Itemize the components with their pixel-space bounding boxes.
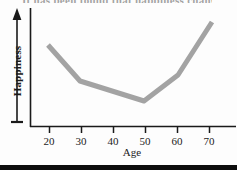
x-axis-title: Age: [112, 146, 152, 158]
x-tick-label-20: 20: [36, 135, 62, 147]
up-arrow-icon: [13, 8, 22, 20]
x-tick-label-60: 60: [164, 135, 190, 147]
x-axis-ticks: [50, 127, 210, 134]
happiness-series-line: [48, 22, 212, 101]
page-edge-bar: [0, 165, 237, 170]
y-axis-label-text: Happiness: [11, 46, 23, 97]
x-tick-label-30: 30: [68, 135, 94, 147]
x-tick-label-70: 70: [196, 135, 222, 147]
chart-figure: It has been found that happiness changes…: [0, 0, 237, 170]
y-axis-label: Happiness: [8, 36, 26, 106]
